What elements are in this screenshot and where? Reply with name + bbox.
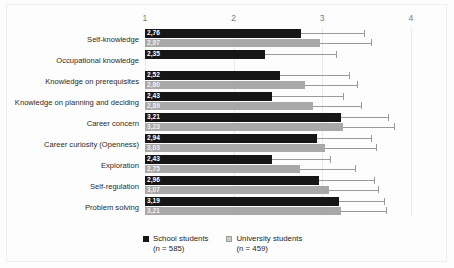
error-bar-cap bbox=[355, 165, 356, 172]
bar-uni[interactable] bbox=[145, 165, 300, 174]
legend-label-school-students-n: (n = 585) bbox=[153, 244, 184, 253]
category-label: Occupational knowledge bbox=[56, 55, 139, 64]
bar-group-school: 2,76 bbox=[145, 29, 411, 38]
bar-group-uni: 2,97 bbox=[145, 39, 411, 48]
bar-uni[interactable] bbox=[145, 144, 325, 153]
bar-group-uni: 3,23 bbox=[145, 123, 411, 132]
category-label: Exploration bbox=[101, 160, 139, 169]
bar-school[interactable] bbox=[145, 50, 265, 59]
bar-value-label: 2,76 bbox=[147, 30, 160, 37]
error-bar-line bbox=[300, 169, 355, 170]
bar-value-label: 3,07 bbox=[147, 186, 160, 193]
category-label: Self-knowledge bbox=[87, 34, 139, 43]
bar-uni[interactable] bbox=[145, 81, 305, 90]
category-label: Problem solving bbox=[85, 202, 139, 211]
error-bar-cap bbox=[371, 135, 372, 142]
error-bar-line bbox=[317, 138, 371, 139]
bar-value-label: 2,52 bbox=[147, 72, 160, 79]
error-bar-cap bbox=[343, 93, 344, 100]
bar-value-label: 2,80 bbox=[147, 81, 160, 88]
bar-value-label: 3,21 bbox=[147, 207, 160, 214]
bar-group-uni: 3,21 bbox=[145, 207, 411, 216]
error-bar-line bbox=[313, 106, 362, 107]
error-bar-line bbox=[319, 180, 374, 181]
bar-group-uni: 2,75 bbox=[145, 165, 411, 174]
bar-value-label: 2,75 bbox=[147, 165, 160, 172]
bar-school[interactable] bbox=[145, 155, 272, 164]
bar-uni[interactable] bbox=[145, 39, 320, 48]
bar-uni[interactable] bbox=[145, 123, 343, 132]
bar-school[interactable] bbox=[145, 134, 317, 143]
bar-value-label: 3,23 bbox=[147, 123, 160, 130]
chart-row: Knowledge on prerequisites2,522,80 bbox=[145, 70, 411, 91]
error-bar-line bbox=[325, 148, 376, 149]
bar-group-school: 2,43 bbox=[145, 155, 411, 164]
error-bar-cap bbox=[394, 123, 395, 130]
bar-group-school: 2,52 bbox=[145, 71, 411, 80]
error-bar-cap bbox=[378, 186, 379, 193]
bar-group-school: 2,35 bbox=[145, 50, 411, 59]
error-bar-line bbox=[341, 117, 388, 118]
error-bar-cap bbox=[371, 39, 372, 46]
error-bar-line bbox=[301, 33, 364, 34]
error-bar-cap bbox=[357, 81, 358, 88]
category-label: Self-regulation bbox=[90, 181, 139, 190]
legend-label-university-students: University students (n = 459) bbox=[236, 234, 302, 253]
bar-school[interactable] bbox=[145, 71, 280, 80]
bar-group-uni: 2,80 bbox=[145, 81, 411, 90]
error-bar-cap bbox=[388, 114, 389, 121]
bar-uni[interactable] bbox=[145, 102, 313, 111]
chart-container: 1234 Self-knowledge2,762,97Occupational … bbox=[0, 0, 454, 268]
error-bar-cap bbox=[330, 156, 331, 163]
bar-uni[interactable] bbox=[145, 207, 341, 216]
bar-group-school: 2,96 bbox=[145, 176, 411, 185]
chart-row: Occupational knowledge2,35 bbox=[145, 49, 411, 70]
bar-school[interactable] bbox=[145, 29, 301, 38]
error-bar-line bbox=[343, 127, 394, 128]
legend-label-school-students: School students (n = 585) bbox=[153, 234, 208, 253]
bar-group-school: 3,21 bbox=[145, 113, 411, 122]
bar-group-school: 2,43 bbox=[145, 92, 411, 101]
bar-school[interactable] bbox=[145, 92, 272, 101]
legend-label-university-students-n: (n = 459) bbox=[236, 244, 267, 253]
bar-value-label: 2,97 bbox=[147, 39, 160, 46]
chart-legend: School students (n = 585) University stu… bbox=[143, 234, 302, 253]
bar-group-school: 3,19 bbox=[145, 197, 411, 206]
bar-value-label: 2,96 bbox=[147, 177, 160, 184]
x-axis-tick-3: 3 bbox=[320, 13, 325, 23]
legend-label-university-students-name: University students bbox=[236, 234, 302, 243]
bar-group-uni: 3,03 bbox=[145, 144, 411, 153]
bar-school[interactable] bbox=[145, 176, 319, 185]
error-bar-line bbox=[272, 96, 343, 97]
chart-row: Career concern3,213,23 bbox=[145, 112, 411, 133]
chart-row: Problem solving3,193,21 bbox=[145, 196, 411, 217]
error-bar-cap bbox=[386, 207, 387, 214]
error-bar-line bbox=[339, 201, 384, 202]
error-bar-cap bbox=[361, 102, 362, 109]
error-bar-cap bbox=[384, 198, 385, 205]
bar-group-uni: 2,89 bbox=[145, 102, 411, 111]
legend-label-school-students-name: School students bbox=[153, 234, 208, 243]
legend-swatch-school-students bbox=[143, 236, 149, 242]
legend-item-university-students: University students (n = 459) bbox=[226, 234, 302, 253]
error-bar-line bbox=[341, 211, 386, 212]
error-bar-line bbox=[329, 190, 379, 191]
bar-school[interactable] bbox=[145, 113, 341, 122]
x-axis-tick-2: 2 bbox=[231, 13, 236, 23]
chart-row: Self-regulation2,963,07 bbox=[145, 175, 411, 196]
error-bar-line bbox=[280, 75, 349, 76]
error-bar-cap bbox=[349, 72, 350, 79]
error-bar-line bbox=[305, 85, 357, 86]
x-axis-tick-labels: 1234 bbox=[145, 13, 411, 27]
legend-item-school-students: School students (n = 585) bbox=[143, 234, 208, 253]
bar-value-label: 2,94 bbox=[147, 135, 160, 142]
error-bar-cap bbox=[374, 177, 375, 184]
legend-swatch-university-students bbox=[226, 236, 232, 242]
gridline-4 bbox=[411, 28, 412, 217]
bar-value-label: 3,21 bbox=[147, 114, 160, 121]
bar-uni[interactable] bbox=[145, 186, 329, 195]
category-label: Career curiosity (Openness) bbox=[44, 139, 139, 148]
chart-row: Career curiosity (Openness)2,943,03 bbox=[145, 133, 411, 154]
bar-school[interactable] bbox=[145, 197, 339, 206]
bar-value-label: 3,19 bbox=[147, 198, 160, 205]
